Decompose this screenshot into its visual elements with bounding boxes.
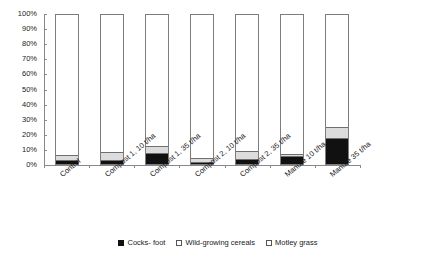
legend-item[interactable]: Cocks- foot	[118, 238, 165, 247]
stacked-bar[interactable]	[55, 14, 79, 165]
y-axis-tick-label: 80%	[22, 38, 37, 49]
bar-segment	[236, 15, 258, 151]
bar-slot	[100, 14, 124, 165]
legend-label: Cocks- foot	[127, 238, 165, 247]
bar-segment	[326, 127, 348, 139]
legend-label: Motley grass	[275, 238, 318, 247]
legend-item[interactable]: Motley grass	[266, 238, 318, 247]
y-axis-tick-label: 40%	[22, 99, 37, 110]
legend-swatch-icon	[176, 240, 182, 246]
y-axis-tick-label: 100%	[18, 8, 37, 19]
y-axis-tick-label: 30%	[22, 114, 37, 125]
bar-group	[44, 14, 360, 165]
x-axis-labels: ControlCompost 1, 10 t/haCompost 1, 35 t…	[0, 168, 436, 228]
stacked-bar-chart: 100%90%80%70%60%50%40%30%20%10%0% Contro…	[0, 0, 436, 264]
stacked-bar[interactable]	[100, 14, 124, 165]
bar-segment	[146, 15, 168, 146]
y-axis-tick-label: 70%	[22, 53, 37, 64]
stacked-bar[interactable]	[325, 14, 349, 165]
y-axis-tick-label: 20%	[22, 129, 37, 140]
y-axis-tick-label: 60%	[22, 68, 37, 79]
chart-legend: Cocks- footWild-growing cerealsMotley gr…	[0, 238, 436, 247]
bar-slot	[55, 14, 79, 165]
y-axis-tick-label: 10%	[22, 144, 37, 155]
bar-segment	[326, 15, 348, 127]
bar-slot	[325, 14, 349, 165]
legend-swatch-icon	[118, 240, 124, 246]
legend-swatch-icon	[266, 240, 272, 246]
y-axis-tick-label: 90%	[22, 23, 37, 34]
bar-segment	[146, 146, 168, 153]
legend-label: Wild-growing cereals	[185, 238, 255, 247]
bar-segment	[56, 15, 78, 155]
legend-item[interactable]: Wild-growing cereals	[176, 238, 255, 247]
bar-segment	[101, 15, 123, 152]
y-axis-tick-label: 50%	[22, 84, 37, 95]
